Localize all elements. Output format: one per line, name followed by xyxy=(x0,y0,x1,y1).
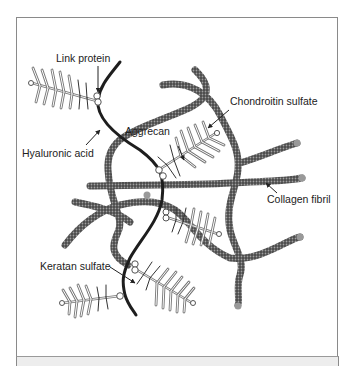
collagen-fibril-6 xyxy=(240,143,297,163)
svg-text:Chondroitin sulfate: Chondroitin sulfate xyxy=(230,95,318,107)
label-aggrecan: Aggrecan xyxy=(125,125,184,160)
aggrecan-monomer-4 xyxy=(132,261,196,312)
collagen-fibril-3 xyxy=(90,178,302,186)
svg-text:Collagen fibril: Collagen fibril xyxy=(267,193,331,205)
svg-text:Link protein: Link protein xyxy=(56,52,110,64)
label-hyaluronic-acid: Hyaluronic acid xyxy=(22,130,100,159)
svg-text:Hyaluronic acid: Hyaluronic acid xyxy=(22,147,94,159)
svg-text:Keratan sulfate: Keratan sulfate xyxy=(40,260,111,272)
aggrecan-monomer-5 xyxy=(60,285,124,317)
aggrecan-monomer-1 xyxy=(29,68,102,109)
label-collagen-fibril: Collagen fibril xyxy=(266,183,331,205)
aggrecan-monomer-3 xyxy=(163,208,222,245)
svg-text:Aggrecan: Aggrecan xyxy=(125,125,170,137)
